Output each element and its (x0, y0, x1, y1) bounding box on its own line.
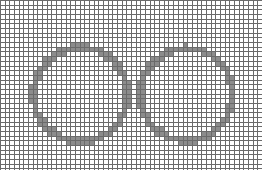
grid-line-horizontal (0, 103, 262, 104)
grid-line-horizontal (0, 23, 262, 24)
grid-line-horizontal (0, 5, 262, 6)
grid-line-horizontal (0, 42, 262, 43)
grid-line-horizontal (0, 80, 262, 81)
grid-line-horizontal (0, 0, 262, 1)
grid-pattern-canvas (0, 0, 262, 170)
grid-line-horizontal (0, 122, 262, 123)
grid-line-horizontal (0, 164, 262, 165)
grid-line-horizontal (0, 159, 262, 160)
grid-line-horizontal (0, 47, 262, 48)
grid-line-horizontal (0, 56, 262, 57)
grid-line-horizontal (0, 117, 262, 118)
grid-line-horizontal (0, 9, 262, 10)
grid-line-horizontal (0, 140, 262, 141)
grid-line-horizontal (0, 98, 262, 99)
grid-line-horizontal (0, 14, 262, 15)
grid-line-horizontal (0, 94, 262, 95)
grid-line-horizontal (0, 28, 262, 29)
grid-line-horizontal (0, 126, 262, 127)
grid-line-horizontal (0, 33, 262, 34)
grid-line-horizontal (0, 75, 262, 76)
grid-line-horizontal (0, 136, 262, 137)
grid-line-horizontal (0, 66, 262, 67)
grid-line-horizontal (0, 150, 262, 151)
grid-line-horizontal (0, 89, 262, 90)
grid-line-horizontal (0, 61, 262, 62)
grid-line-horizontal (0, 84, 262, 85)
grid-line-horizontal (0, 154, 262, 155)
grid-line-horizontal (0, 19, 262, 20)
grid-line-horizontal (0, 108, 262, 109)
grid-line-horizontal (0, 131, 262, 132)
grid-line-horizontal (0, 168, 262, 169)
grid-line-horizontal (0, 112, 262, 113)
grid-line-horizontal (0, 70, 262, 71)
grid-line-horizontal (0, 145, 262, 146)
grid-line-horizontal (0, 37, 262, 38)
grid-line-horizontal (0, 51, 262, 52)
